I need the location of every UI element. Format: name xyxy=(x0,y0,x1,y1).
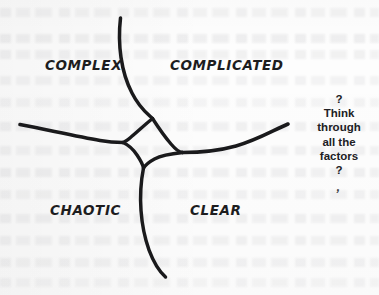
stroke-right xyxy=(183,124,289,153)
margin-note-line: all the xyxy=(305,135,373,149)
margin-note-line: through xyxy=(305,120,373,134)
quadrant-label-chaotic: CHAOTIC xyxy=(50,204,121,218)
margin-note-line: factors xyxy=(305,149,373,163)
star-arc-top-left xyxy=(123,119,153,143)
margin-note-line: ? xyxy=(305,92,373,106)
diagram-canvas: COMPLEX COMPLICATED CHAOTIC CLEAR ? Thin… xyxy=(0,0,379,295)
quadrant-label-clear: CLEAR xyxy=(190,204,242,218)
star-arc-bottom-right xyxy=(144,153,183,169)
stroke-top xyxy=(119,18,152,119)
stroke-bottom xyxy=(141,168,166,277)
margin-note-line: ? xyxy=(305,163,373,177)
star-arc-top-right xyxy=(153,119,183,153)
quadrant-label-complicated: COMPLICATED xyxy=(170,59,284,73)
star-arc-bottom-left xyxy=(123,143,144,169)
quadrant-label-complex: COMPLEX xyxy=(45,59,122,73)
margin-note-line: Think xyxy=(305,106,373,120)
margin-note: ? Think through all the factors ? xyxy=(305,92,373,177)
stroke-left xyxy=(20,125,123,143)
